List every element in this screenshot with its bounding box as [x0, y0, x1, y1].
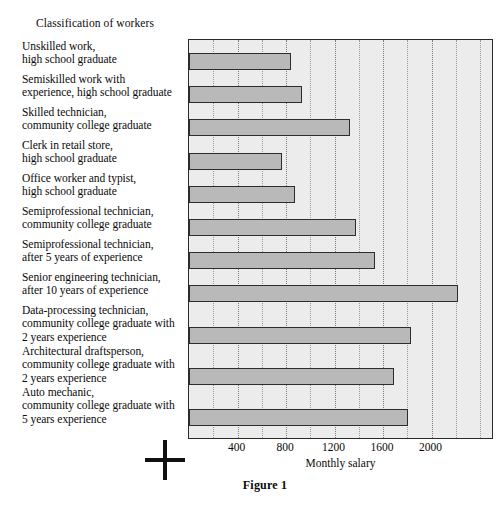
x-axis-title: Monthly salary: [188, 457, 493, 469]
cross-horizontal-stroke: [145, 458, 185, 462]
bar: [189, 186, 295, 203]
bar: [189, 153, 282, 170]
gridline-minor: [407, 40, 409, 438]
bar: [189, 219, 356, 236]
category-label: Architectural draftsperson, community co…: [22, 345, 202, 385]
gridline-major: [432, 40, 434, 438]
registration-cross-icon: [143, 438, 187, 482]
category-label: Office worker and typist, high school gr…: [22, 172, 202, 199]
bar: [189, 285, 458, 302]
classification-column-title: Classification of workers: [0, 16, 190, 30]
category-label: Semiskilled work with experience, high s…: [22, 73, 202, 100]
category-label: Semiprofessional technician, after 5 yea…: [22, 238, 202, 265]
x-tick-label: 1200: [322, 441, 345, 454]
category-label: Auto mechanic, community college graduat…: [22, 386, 202, 426]
category-label: Skilled technician, community college gr…: [22, 106, 202, 133]
bar: [189, 368, 394, 385]
bar: [189, 409, 408, 426]
category-label: Data-processing technician, community co…: [22, 304, 202, 344]
x-tick-label: 800: [276, 441, 293, 454]
x-axis-tick-labels: 400800120016002000: [188, 441, 493, 457]
figure-caption: Figure 1: [150, 478, 380, 493]
x-tick-label: 400: [228, 441, 245, 454]
x-tick-label: 1600: [371, 441, 394, 454]
x-tick-label: 2000: [419, 441, 442, 454]
gridline-minor: [480, 40, 482, 438]
figure-page: Classification of workers Unskilled work…: [0, 0, 504, 507]
bar: [189, 53, 291, 70]
gridline-minor: [456, 40, 458, 438]
plot-area: [188, 39, 493, 439]
category-label: Senior engineering technician, after 10 …: [22, 271, 202, 298]
bar: [189, 119, 350, 136]
category-label: Clerk in retail store, high school gradu…: [22, 139, 202, 166]
bar: [189, 86, 302, 103]
category-label: Unskilled work, high school graduate: [22, 40, 202, 67]
category-label: Semiprofessional technician, community c…: [22, 205, 202, 232]
bar: [189, 252, 375, 269]
bar: [189, 327, 411, 344]
